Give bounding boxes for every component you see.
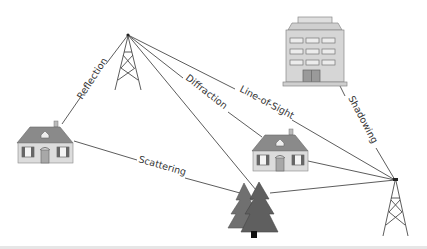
path-to-trees <box>128 35 256 190</box>
label-reflection: Reflection <box>74 55 109 101</box>
house-icon <box>17 121 73 163</box>
label-diffraction: Diffraction <box>184 72 230 111</box>
path-trees-to-tower <box>270 180 395 193</box>
propagation-paths <box>62 35 395 193</box>
label-line-of-sight: Line-of-Sight <box>238 83 296 121</box>
path-house-to-tower <box>308 161 395 180</box>
path-shadowing <box>340 86 345 96</box>
path-scattering <box>74 141 137 160</box>
label-scattering: Scattering <box>137 153 187 177</box>
transmission-tower-icon <box>383 178 408 236</box>
building-icon <box>283 17 347 86</box>
path-line-of-sight <box>128 35 235 89</box>
propagation-diagram: Reflection Diffraction Line-of-Sight Sha… <box>0 0 427 249</box>
tree-icon <box>228 182 278 238</box>
label-shadowing: Shadowing <box>346 94 380 145</box>
